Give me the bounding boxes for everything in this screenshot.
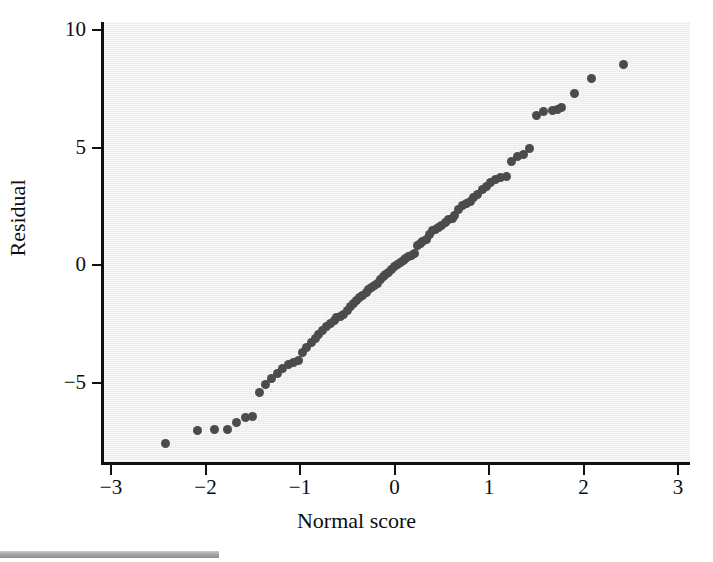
x-tick-mark (677, 465, 679, 475)
x-tick-label: 0 (375, 477, 415, 498)
data-point (410, 249, 419, 258)
x-axis-line (101, 462, 690, 465)
data-point (294, 356, 303, 365)
x-tick-label: 2 (564, 477, 604, 498)
data-point (502, 172, 511, 181)
x-tick-label: 3 (658, 477, 698, 498)
data-point (539, 107, 548, 116)
data-point (161, 439, 170, 448)
data-point (587, 74, 596, 83)
x-tick-mark (110, 465, 112, 475)
x-tick-mark (583, 465, 585, 475)
data-point (570, 89, 579, 98)
data-point (619, 60, 628, 69)
qq-plot-figure: 1050−5 −3−2−10123 Normal score Residual (0, 0, 713, 562)
data-point (557, 103, 566, 112)
x-tick-label: −2 (186, 477, 226, 498)
bottom-gray-strip (0, 551, 219, 558)
y-tick-label: 5 (40, 137, 86, 158)
x-tick-label: −1 (280, 477, 320, 498)
x-tick-label: 1 (469, 477, 509, 498)
y-tick-mark (92, 382, 101, 384)
x-axis-title: Normal score (0, 508, 713, 534)
x-tick-mark (394, 465, 396, 475)
data-point (255, 388, 264, 397)
y-tick-mark (92, 264, 101, 266)
x-tick-mark (205, 465, 207, 475)
y-tick-mark (92, 29, 101, 31)
y-axis-line (101, 22, 104, 465)
x-tick-mark (488, 465, 490, 475)
x-tick-label: −3 (91, 477, 131, 498)
y-tick-label: 10 (40, 19, 86, 40)
plot-area-background (104, 22, 690, 463)
y-tick-label: −5 (40, 372, 86, 393)
y-tick-mark (92, 147, 101, 149)
x-tick-mark (299, 465, 301, 475)
y-axis-title: Residual (5, 138, 31, 298)
y-tick-label: 0 (40, 254, 86, 275)
